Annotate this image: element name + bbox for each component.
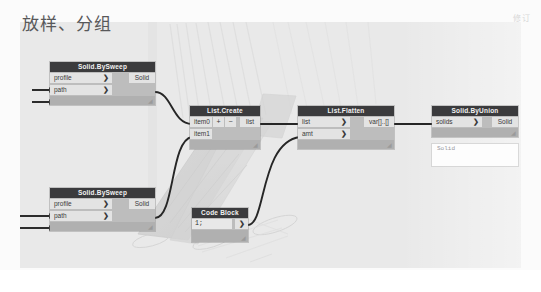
- node-body: profile ❯ Solid path ❯: [50, 72, 155, 96]
- wire-sweep-top-to-listcreate: [155, 92, 192, 124]
- port-row: profile ❯ Solid: [50, 72, 155, 84]
- resize-grip-icon[interactable]: ◢: [511, 129, 516, 137]
- port-row: item1: [190, 128, 260, 140]
- node-title: Solid.ByUnion: [432, 106, 518, 116]
- node-body: item0 + − list item1: [190, 116, 260, 140]
- node-resize-footer[interactable]: ◢: [192, 230, 248, 242]
- port-row: item0 + − list: [190, 116, 260, 128]
- input-stub-profile-top: [32, 89, 50, 91]
- input-port-path[interactable]: path ❯: [50, 211, 112, 221]
- node-body: solids ❯ Solid: [432, 116, 518, 128]
- node-title: List.Flatten: [298, 106, 394, 116]
- port-row: amt ❯: [298, 128, 394, 140]
- chevron-right-icon: ❯: [103, 211, 109, 221]
- remove-input-button[interactable]: −: [225, 117, 236, 127]
- port-row: solids ❯ Solid: [432, 116, 518, 128]
- node-title: List.Create: [190, 106, 260, 116]
- input-port-label: path: [54, 86, 67, 93]
- output-port-solid[interactable]: Solid: [129, 73, 155, 83]
- node-body: list ❯ var[]..[] amt ❯: [298, 116, 394, 140]
- input-port-label: profile: [54, 200, 72, 207]
- port-row: profile ❯ Solid: [50, 198, 155, 210]
- port-row: list ❯ var[]..[]: [298, 116, 394, 128]
- dynamo-canvas[interactable]: Solid.BySweep profile ❯ Solid path ❯: [20, 22, 521, 268]
- input-port-label: list: [302, 118, 310, 125]
- node-solid-bysweep-bottom[interactable]: Solid.BySweep profile ❯ Solid path ❯: [50, 188, 155, 231]
- node-resize-footer[interactable]: ◢: [298, 140, 394, 149]
- node-solid-byunion[interactable]: Solid.ByUnion solids ❯ Solid ◢: [432, 106, 518, 137]
- chevron-right-icon: ❯: [341, 117, 347, 127]
- input-stub-path-bottom: [20, 227, 50, 229]
- node-resize-footer[interactable]: ◢: [50, 96, 155, 105]
- chevron-right-icon: ❯: [103, 85, 109, 95]
- output-port-codeblock[interactable]: ❯: [235, 219, 248, 229]
- resize-grip-icon[interactable]: ◢: [253, 141, 258, 149]
- output-port-list[interactable]: list: [240, 117, 260, 127]
- input-port-solids[interactable]: solids ❯: [432, 117, 482, 127]
- node-solid-bysweep-top[interactable]: Solid.BySweep profile ❯ Solid path ❯: [50, 62, 155, 105]
- output-port-solid[interactable]: Solid: [492, 117, 518, 127]
- port-row: path ❯: [50, 84, 155, 96]
- add-input-button[interactable]: +: [213, 117, 224, 127]
- input-stub-path-top: [32, 101, 50, 103]
- node-title: Code Block: [192, 208, 248, 218]
- node-preview-label: Solid: [432, 144, 518, 166]
- resize-grip-icon[interactable]: ◢: [241, 234, 246, 242]
- input-port-list[interactable]: list ❯: [298, 117, 350, 127]
- input-port-label: path: [54, 212, 67, 219]
- resize-grip-icon[interactable]: ◢: [387, 141, 392, 149]
- input-stub-profile-bottom: [20, 215, 50, 217]
- input-port-amt[interactable]: amt ❯: [298, 129, 350, 139]
- node-list-create[interactable]: List.Create item0 + − list item1 ◢: [190, 106, 260, 149]
- code-block-input[interactable]: 1;: [192, 219, 232, 229]
- input-port-path[interactable]: path ❯: [50, 85, 112, 95]
- wire-sweep-bottom-to-listcreate: [155, 137, 192, 218]
- node-code-block[interactable]: Code Block 1; ❯ ◢: [192, 208, 248, 242]
- input-port-label: profile: [54, 74, 72, 81]
- node-resize-footer[interactable]: ◢: [50, 222, 155, 231]
- output-port-var[interactable]: var[]..[]: [364, 117, 394, 127]
- screenshot-page: 修订: [0, 0, 541, 292]
- input-port-label: solids: [436, 118, 453, 125]
- output-port-solid[interactable]: Solid: [129, 199, 155, 209]
- chevron-right-icon: ❯: [473, 117, 479, 127]
- node-body: profile ❯ Solid path ❯: [50, 198, 155, 222]
- node-title: Solid.BySweep: [50, 62, 155, 72]
- node-resize-footer[interactable]: ◢: [432, 128, 518, 137]
- page-title: 放样、分组: [22, 10, 112, 35]
- port-row: path ❯: [50, 210, 155, 222]
- input-port-profile[interactable]: profile ❯: [50, 199, 112, 209]
- resize-grip-icon[interactable]: ◢: [148, 223, 153, 231]
- input-port-item1[interactable]: item1: [190, 129, 212, 139]
- chevron-right-icon: ❯: [103, 199, 109, 209]
- chevron-right-icon: ❯: [103, 73, 109, 83]
- resize-grip-icon[interactable]: ◢: [148, 97, 153, 105]
- node-body: 1; ❯: [192, 218, 248, 230]
- wire-codeblock-to-flatten: [248, 137, 300, 225]
- input-port-label: amt: [302, 130, 313, 137]
- node-list-flatten[interactable]: List.Flatten list ❯ var[]..[] amt ❯: [298, 106, 394, 149]
- chevron-right-icon: ❯: [341, 129, 347, 139]
- input-port-item0[interactable]: item0: [190, 117, 212, 127]
- node-resize-footer[interactable]: ◢: [190, 140, 260, 149]
- node-title: Solid.BySweep: [50, 188, 155, 198]
- input-port-profile[interactable]: profile ❯: [50, 73, 112, 83]
